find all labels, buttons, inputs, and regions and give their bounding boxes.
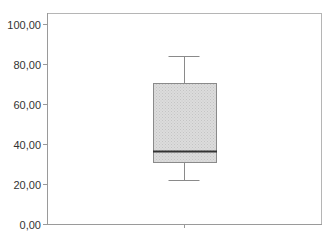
y-tick-label: 0,00 (20, 219, 41, 231)
y-tick-label: 40,00 (13, 139, 41, 151)
y-tick-label: 100,00 (7, 19, 41, 31)
y-tick-label: 20,00 (13, 179, 41, 191)
y-tick-label: 80,00 (13, 59, 41, 71)
y-tick-label: 60,00 (13, 99, 41, 111)
y-axis: 0,0020,0040,0060,0080,00100,00 (7, 19, 47, 231)
box-plot-chart: 0,0020,0040,0060,0080,00100,00 (0, 0, 334, 237)
